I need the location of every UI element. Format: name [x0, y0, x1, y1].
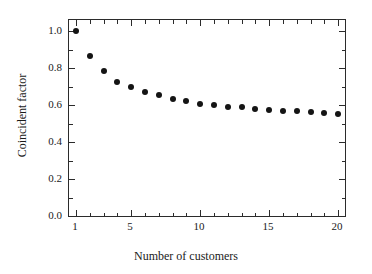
x-tick-label: 1: [55, 221, 95, 232]
x-tick-minor-top: [311, 20, 312, 24]
y-tick-major-right: [339, 142, 345, 143]
x-tick-minor-top: [159, 20, 160, 24]
y-tick-label: 0.6: [22, 99, 62, 110]
x-tick-major: [200, 210, 201, 216]
y-tick-label: 0.8: [22, 62, 62, 73]
x-tick-minor-top: [117, 20, 118, 24]
data-point: [73, 28, 79, 34]
y-tick-major-right: [339, 179, 345, 180]
x-tick-minor-top: [104, 20, 105, 24]
x-tick-minor-top: [228, 20, 229, 24]
y-tick-major: [69, 179, 75, 180]
data-point: [308, 109, 314, 115]
y-tick-minor: [69, 124, 73, 125]
x-tick-minor-top: [186, 20, 187, 24]
x-tick-minor: [104, 213, 105, 217]
x-tick-minor-top: [297, 20, 298, 24]
y-tick-label: 0.0: [22, 210, 62, 221]
x-tick-minor: [214, 213, 215, 217]
data-point: [197, 101, 203, 107]
x-tick-minor-top: [283, 20, 284, 24]
y-tick-minor: [69, 87, 73, 88]
x-tick-minor: [90, 213, 91, 217]
x-tick-major: [269, 210, 270, 216]
y-tick-minor-right: [342, 87, 346, 88]
y-tick-minor: [69, 161, 73, 162]
y-tick-minor-right: [342, 198, 346, 199]
data-point: [211, 102, 217, 108]
x-tick-minor: [173, 213, 174, 217]
data-point: [156, 92, 162, 98]
x-tick-major-top: [76, 20, 77, 26]
data-point: [87, 53, 93, 59]
x-tick-major-top: [269, 20, 270, 26]
data-point: [114, 79, 120, 85]
x-tick-major-top: [131, 20, 132, 26]
data-point: [101, 68, 107, 74]
y-tick-major-right: [339, 68, 345, 69]
y-tick-label: 1.0: [22, 25, 62, 36]
x-tick-minor-top: [145, 20, 146, 24]
x-tick-label: 15: [248, 221, 288, 232]
x-tick-minor: [283, 213, 284, 217]
x-tick-minor: [117, 213, 118, 217]
x-tick-major-top: [338, 20, 339, 26]
y-tick-major-right: [339, 31, 345, 32]
data-point: [128, 84, 134, 90]
x-tick-major: [76, 210, 77, 216]
x-tick-label: 10: [179, 221, 219, 232]
plot-area: [69, 20, 345, 216]
y-tick-major-right: [339, 105, 345, 106]
y-tick-major-right: [339, 216, 345, 217]
data-point: [252, 106, 258, 112]
x-tick-minor: [297, 213, 298, 217]
data-point: [183, 98, 189, 104]
x-tick-minor-top: [255, 20, 256, 24]
x-tick-label: 20: [317, 221, 357, 232]
y-tick-major: [69, 216, 75, 217]
x-tick-minor-top: [90, 20, 91, 24]
x-tick-major: [131, 210, 132, 216]
y-tick-minor-right: [342, 161, 346, 162]
x-tick-minor: [324, 213, 325, 217]
x-tick-minor: [242, 213, 243, 217]
y-tick-minor: [69, 50, 73, 51]
x-tick-minor: [228, 213, 229, 217]
x-tick-major-top: [200, 20, 201, 26]
x-tick-minor: [311, 213, 312, 217]
x-tick-minor: [186, 213, 187, 217]
plot-frame: [68, 19, 346, 217]
data-point: [280, 108, 286, 114]
data-point: [142, 89, 148, 95]
x-tick-minor-top: [214, 20, 215, 24]
y-tick-label: 0.4: [22, 136, 62, 147]
y-tick-label: 0.2: [22, 173, 62, 184]
x-tick-minor: [145, 213, 146, 217]
y-tick-major: [69, 105, 75, 106]
x-tick-minor-top: [242, 20, 243, 24]
chart-figure: Number of customers Coincident factor 15…: [0, 0, 372, 274]
data-point: [239, 104, 245, 110]
x-axis-title: Number of customers: [0, 249, 372, 264]
x-tick-minor: [255, 213, 256, 217]
y-tick-major: [69, 142, 75, 143]
data-point: [294, 108, 300, 114]
y-tick-major: [69, 68, 75, 69]
x-tick-minor-top: [324, 20, 325, 24]
x-tick-label: 5: [110, 221, 150, 232]
y-tick-minor-right: [342, 124, 346, 125]
data-point: [335, 111, 341, 117]
y-tick-minor-right: [342, 50, 346, 51]
x-tick-minor: [159, 213, 160, 217]
data-point: [266, 107, 272, 113]
data-point: [225, 104, 231, 110]
x-tick-minor-top: [173, 20, 174, 24]
y-tick-minor: [69, 198, 73, 199]
data-point: [321, 110, 327, 116]
data-point: [170, 96, 176, 102]
